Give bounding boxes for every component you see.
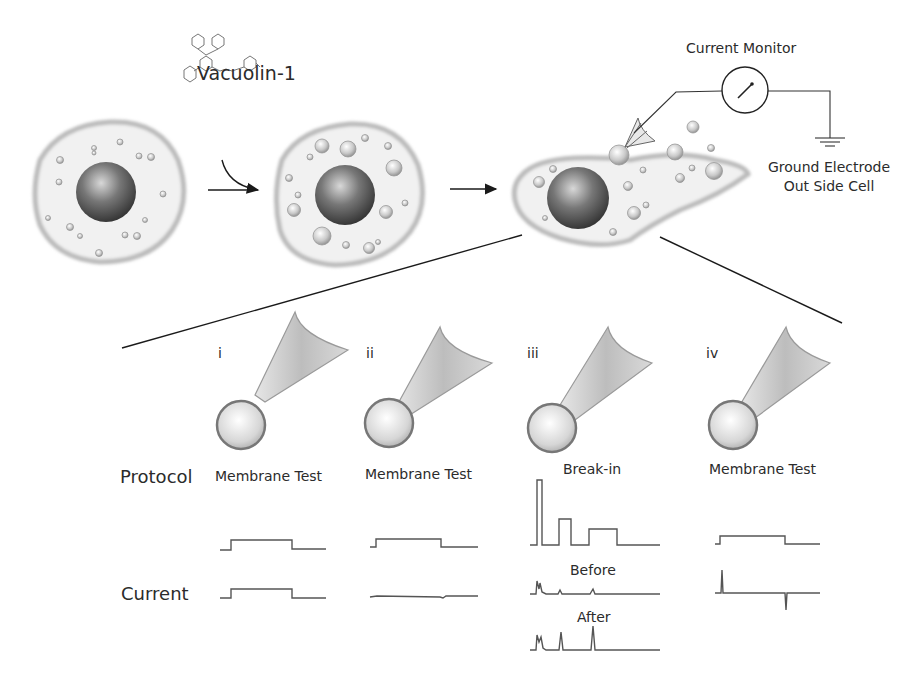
current-monitor-icon xyxy=(722,67,768,113)
ground-label-line1: Ground Electrode xyxy=(768,158,890,177)
ground-label-line2: Out Side Cell xyxy=(768,177,890,196)
cell-vacuolated xyxy=(276,124,422,265)
arrow-treatment xyxy=(208,160,258,190)
panel-i-title: Membrane Test xyxy=(215,468,322,484)
trace-before-label: Before xyxy=(570,562,616,578)
trace-iii-after xyxy=(530,626,660,650)
zoom-lines xyxy=(122,235,842,348)
ground-electrode-label: Ground Electrode Out Side Cell xyxy=(768,158,890,196)
trace-i-protocol xyxy=(220,540,326,550)
cell-recording xyxy=(514,118,748,245)
panel-ii-label: ii xyxy=(366,345,374,361)
panel-ii-title: Membrane Test xyxy=(365,466,472,482)
trace-iv-current xyxy=(715,570,820,610)
panel-i-label: i xyxy=(218,345,222,361)
panel-iv-title: Membrane Test xyxy=(709,461,816,477)
panel-i-illustration xyxy=(217,312,348,449)
trace-ii-protocol xyxy=(370,539,478,547)
trace-iii-protocol xyxy=(530,480,660,545)
trace-ii-current xyxy=(370,596,478,598)
row-label-protocol: Protocol xyxy=(120,466,193,487)
panel-iii-title: Break-in xyxy=(563,461,621,477)
traces xyxy=(220,480,820,650)
panel-iii-illustration xyxy=(528,327,652,452)
cell-normal xyxy=(35,122,184,262)
current-monitor-label: Current Monitor xyxy=(686,40,796,56)
panel-ii-illustration xyxy=(365,327,492,447)
panel-iv-label: iv xyxy=(706,345,718,361)
panel-iv-illustration xyxy=(709,327,830,449)
trace-iv-protocol xyxy=(715,536,820,544)
row-label-current: Current xyxy=(121,583,189,604)
panel-iii-label: iii xyxy=(527,345,539,361)
trace-after-label: After xyxy=(577,609,611,625)
trace-i-current xyxy=(220,589,326,598)
compound-label: Vacuolin-1 xyxy=(197,62,296,84)
trace-iii-before xyxy=(530,581,660,594)
